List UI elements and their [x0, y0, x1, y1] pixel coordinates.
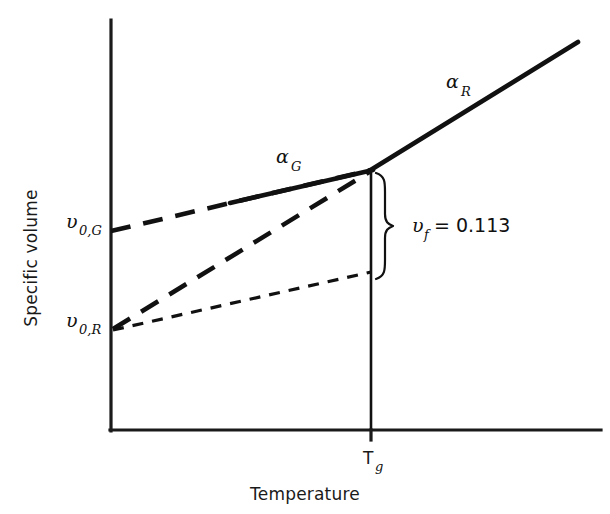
- vf-subscript: f: [423, 227, 431, 242]
- vf-symbol: υ: [412, 214, 424, 236]
- glass-line-solid: [230, 170, 373, 203]
- data-curves-group: [111, 42, 578, 430]
- free-volume-brace: [376, 173, 393, 279]
- tg-subscript: g: [375, 459, 383, 474]
- v0r-label: υ 0,R: [66, 309, 101, 337]
- alpha-g-label: α G: [276, 145, 301, 174]
- figure-root: α R α G υ 0,G υ 0,R υ f = 0.113 T g: [0, 0, 610, 514]
- v0g-label: υ 0,G: [66, 210, 102, 238]
- occupied-volume-dashed-line: [113, 272, 371, 330]
- vf-value: = 0.113: [434, 214, 510, 236]
- v0r-subscript: 0,R: [79, 322, 101, 337]
- tg-symbol: T: [362, 448, 374, 468]
- v0g-symbol: υ: [66, 210, 78, 232]
- alpha-r-subscript: R: [460, 84, 471, 99]
- v0g-subscript: 0,G: [79, 223, 102, 238]
- alpha-r-symbol: α: [446, 70, 459, 92]
- rubber-line-solid: [369, 42, 578, 171]
- v0r-symbol: υ: [66, 309, 78, 331]
- alpha-g-subscript: G: [291, 159, 301, 174]
- tg-tick-label: T g: [362, 448, 383, 474]
- specific-volume-vs-temperature-chart: α R α G υ 0,G υ 0,R υ f = 0.113 T g: [0, 0, 610, 514]
- alpha-r-label: α R: [446, 70, 471, 99]
- rubber-extrapolation-dashed-line: [113, 171, 371, 329]
- axis-group: [110, 20, 601, 431]
- x-axis-title: Temperature: [249, 484, 360, 504]
- alpha-g-symbol: α: [276, 145, 289, 167]
- free-volume-annotation: υ f = 0.113: [412, 214, 510, 242]
- brace-icon: [376, 173, 393, 279]
- y-axis-title: Specific volume: [21, 189, 41, 327]
